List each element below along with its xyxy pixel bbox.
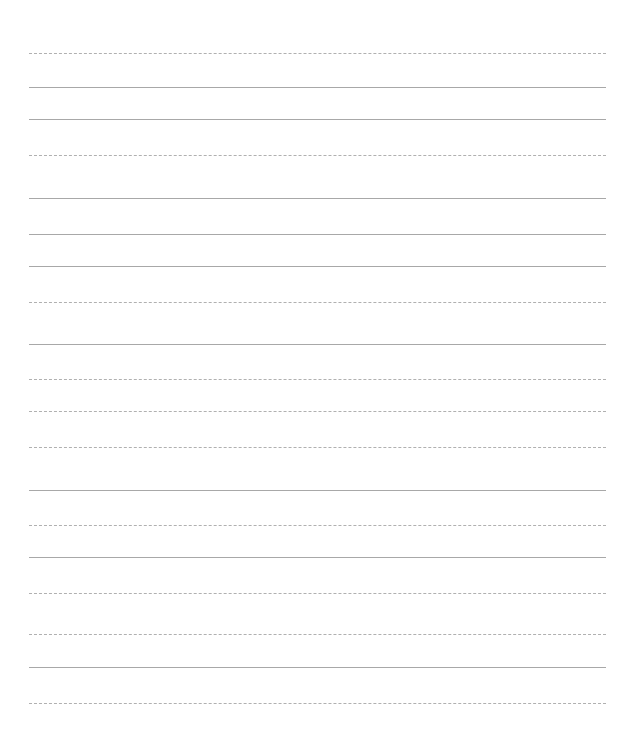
ruled-line: [29, 302, 606, 303]
ruled-line: [29, 344, 606, 345]
lined-page: [0, 0, 632, 751]
ruled-line: [29, 447, 606, 448]
ruled-line: [29, 525, 606, 526]
ruled-line: [29, 703, 606, 704]
ruled-line: [29, 593, 606, 594]
ruled-line: [29, 87, 606, 88]
ruled-line: [29, 53, 606, 54]
ruled-line: [29, 411, 606, 412]
ruled-line: [29, 155, 606, 156]
ruled-line: [29, 119, 606, 120]
ruled-line: [29, 667, 606, 668]
ruled-line: [29, 266, 606, 267]
ruled-line: [29, 490, 606, 491]
ruled-line: [29, 234, 606, 235]
ruled-line: [29, 634, 606, 635]
ruled-line: [29, 198, 606, 199]
ruled-line: [29, 557, 606, 558]
ruled-line: [29, 379, 606, 380]
